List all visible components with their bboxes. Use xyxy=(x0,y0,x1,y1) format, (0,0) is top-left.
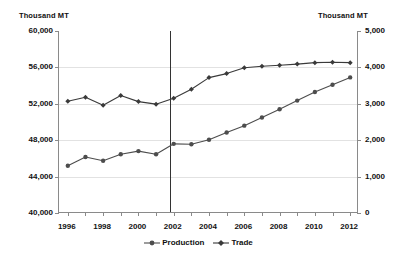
diamond-marker-icon xyxy=(83,95,88,100)
diamond-marker-icon xyxy=(65,99,70,104)
left-axis-tick-label: 44,000 xyxy=(13,172,53,181)
diamond-marker-icon xyxy=(224,71,229,76)
left-axis-unit-label: Thousand MT xyxy=(19,11,69,20)
right-axis-tick-label: 1,000 xyxy=(365,172,397,181)
left-axis-tick-label: 60,000 xyxy=(13,26,53,35)
diamond-marker-icon xyxy=(277,63,282,68)
x-axis-tick-label: 2008 xyxy=(262,222,296,231)
diamond-marker-icon xyxy=(242,65,247,70)
circle-marker-icon xyxy=(66,163,70,167)
left-tickmark xyxy=(55,213,59,214)
left-axis-tick-label: 52,000 xyxy=(13,99,53,108)
right-axis-unit-label: Thousand MT xyxy=(318,11,368,20)
circle-marker-icon xyxy=(144,239,160,247)
circle-marker-icon xyxy=(172,142,176,146)
circle-marker-icon xyxy=(207,138,211,142)
circle-marker-icon xyxy=(189,142,193,146)
right-axis-tick-label: 5,000 xyxy=(365,26,397,35)
circle-marker-icon xyxy=(330,82,334,86)
circle-marker-icon xyxy=(348,75,352,79)
x-axis-tick-label: 2002 xyxy=(156,222,190,231)
circle-marker-icon xyxy=(260,115,264,119)
diamond-marker-icon xyxy=(312,60,317,65)
legend-item-trade[interactable]: Trade xyxy=(213,239,252,247)
chart-legend: ProductionTrade xyxy=(0,236,397,250)
diamond-marker-icon xyxy=(136,99,141,104)
right-tickmark xyxy=(357,213,361,214)
right-axis-tick-label: 0 xyxy=(365,208,397,217)
circle-marker-icon xyxy=(136,149,140,153)
diamond-marker-icon xyxy=(330,60,335,65)
chart-container: Thousand MT Thousand MT 60,00056,00052,0… xyxy=(0,0,397,257)
left-axis-tick-label: 40,000 xyxy=(13,208,53,217)
left-axis-tick-label: 48,000 xyxy=(13,135,53,144)
circle-marker-icon xyxy=(224,130,228,134)
right-axis-tick-label: 4,000 xyxy=(365,62,397,71)
circle-marker-icon xyxy=(154,152,158,156)
circle-marker-icon xyxy=(242,123,246,127)
x-axis-tick-label: 2010 xyxy=(297,222,331,231)
series-production xyxy=(66,75,353,168)
diamond-marker-icon xyxy=(348,60,353,65)
circle-marker-icon xyxy=(101,158,105,162)
right-axis-tick-label: 2,000 xyxy=(365,135,397,144)
diamond-marker-icon xyxy=(259,64,264,69)
diamond-marker-icon xyxy=(154,102,159,107)
circle-marker-icon xyxy=(277,107,281,111)
right-axis-tick-label: 3,000 xyxy=(365,99,397,108)
legend-label: Production xyxy=(162,239,204,247)
diamond-marker-icon xyxy=(295,62,300,67)
circle-marker-icon xyxy=(295,98,299,102)
x-axis-tick-label: 1998 xyxy=(85,222,119,231)
left-axis-tick-label: 56,000 xyxy=(13,62,53,71)
legend-item-production[interactable]: Production xyxy=(144,239,204,247)
series-line xyxy=(68,62,350,105)
x-axis-tick-label: 2006 xyxy=(226,222,260,231)
diamond-marker-icon xyxy=(101,103,106,108)
diamond-marker-icon xyxy=(213,239,229,247)
data-series-group xyxy=(59,31,359,213)
series-line xyxy=(68,77,350,165)
x-axis-tick-label: 1996 xyxy=(50,222,84,231)
diamond-marker-icon xyxy=(171,96,176,101)
circle-marker-icon xyxy=(83,155,87,159)
x-axis-tick-label: 2012 xyxy=(332,222,366,231)
x-axis-tick-label: 2000 xyxy=(120,222,154,231)
diamond-marker-icon xyxy=(118,93,123,98)
legend-label: Trade xyxy=(231,239,252,247)
circle-marker-icon xyxy=(119,152,123,156)
series-trade xyxy=(65,60,352,108)
plot-area xyxy=(58,31,358,213)
x-axis-tick-label: 2004 xyxy=(191,222,225,231)
circle-marker-icon xyxy=(313,90,317,94)
